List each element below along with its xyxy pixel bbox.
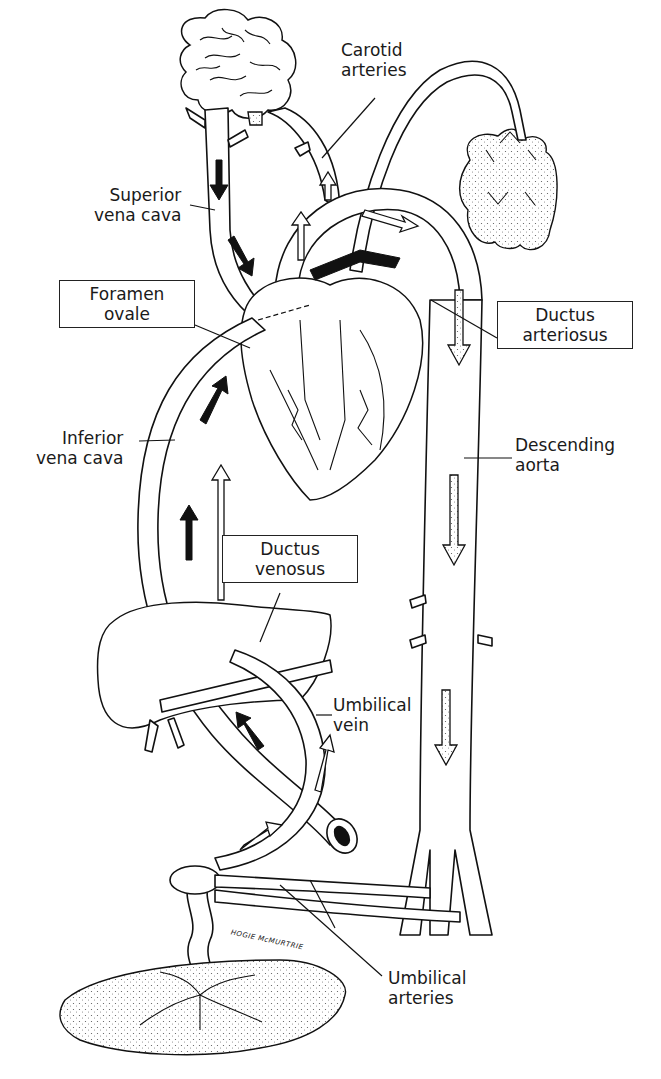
label-line: Umbilical — [388, 968, 466, 988]
descending-aorta — [400, 300, 492, 935]
heart-illustration — [241, 278, 423, 500]
label-superior-vena-cava: Superior vena cava — [94, 185, 181, 225]
label-line: Ductus — [506, 305, 624, 325]
label-inferior-vena-cava: Inferior vena cava — [36, 428, 123, 468]
label-line: aorta — [515, 455, 615, 475]
label-line: Superior — [94, 185, 181, 205]
label-foramen-ovale: Foramen ovale — [59, 280, 195, 328]
brain-illustration — [180, 10, 296, 125]
placenta-illustration — [60, 960, 346, 1055]
label-line: venosus — [231, 559, 349, 579]
label-ductus-arteriosus: Ductus arteriosus — [497, 301, 633, 349]
label-line: arteries — [388, 988, 466, 1008]
label-line: vena cava — [36, 448, 123, 468]
label-umbilical-vein: Umbilical vein — [333, 695, 411, 735]
label-carotid-arteries: Carotid arteries — [341, 40, 407, 80]
lungs-illustration — [460, 129, 557, 249]
label-line: Descending — [515, 435, 615, 455]
label-line: Carotid — [341, 40, 407, 60]
label-line: arteriosus — [506, 325, 624, 345]
label-line: Inferior — [36, 428, 123, 448]
label-line: Umbilical — [333, 695, 411, 715]
label-ductus-venosus: Ductus venosus — [222, 535, 358, 583]
label-line: vein — [333, 715, 411, 735]
label-umbilical-arteries: Umbilical arteries — [388, 968, 466, 1008]
label-line: Foramen — [68, 284, 186, 304]
label-line: ovale — [68, 304, 186, 324]
label-line: arteries — [341, 60, 407, 80]
label-descending-aorta: Descending aorta — [515, 435, 615, 475]
label-line: vena cava — [94, 205, 181, 225]
label-line: Ductus — [231, 539, 349, 559]
